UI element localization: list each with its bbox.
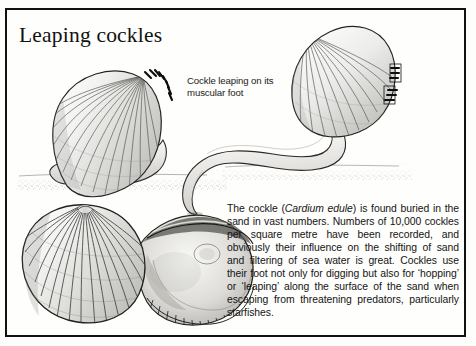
body-text-before-species: The cockle ( — [227, 203, 285, 214]
content-frame: Leaping cockles Cockle leaping on its mu… — [5, 8, 466, 337]
cockle-leaping-caption: Cockle leaping on its muscular foot — [187, 75, 287, 98]
cockle-resting-on-foot-illustration — [47, 70, 172, 197]
cockle-leaping-siphon-marks — [385, 68, 399, 100]
cockle-leaping-shell — [292, 26, 395, 136]
cockle-siphon-marks — [145, 70, 172, 100]
cockle-shell-body — [53, 71, 161, 197]
body-text-after-species: ) is found buried in the sand in vast nu… — [227, 203, 459, 318]
page-title: Leaping cockles — [19, 23, 162, 48]
cockle-leaping-foot — [183, 118, 346, 214]
cockle-foot — [50, 140, 167, 185]
sand-ground-right — [222, 160, 412, 180]
sand-ground-left — [17, 170, 229, 190]
cockle-leaping-illustration — [183, 26, 401, 216]
illustration-page: Leaping cockles Cockle leaping on its mu… — [0, 0, 476, 346]
cockle-shell-exterior — [22, 205, 145, 323]
body-paragraph: The cockle (Cardium edule) is found buri… — [227, 202, 459, 319]
cockle-shell-pair-illustration — [22, 204, 260, 334]
species-name: Cardium edule — [285, 203, 353, 214]
